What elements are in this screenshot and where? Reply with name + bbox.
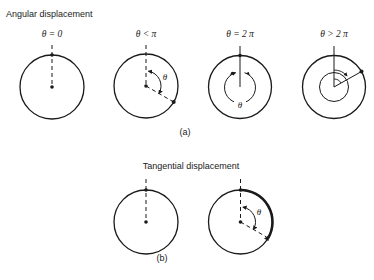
center-point (144, 84, 148, 88)
panel-label: θ = 2 π (226, 29, 254, 39)
theta-arc-arrow (243, 207, 256, 229)
panel-theta-greater-than-2pi: θ > 2 π (303, 29, 366, 119)
panel-tangential-start (114, 179, 178, 254)
position-point (144, 188, 148, 192)
position-point (238, 54, 242, 58)
panel-label: θ < π (136, 29, 157, 39)
theta-arc-arrow (149, 71, 162, 93)
displacement-diagram: Angular displacement θ = 0 θ < π θ θ = 2… (0, 0, 374, 280)
panel-tangential-displaced: θ (209, 179, 273, 254)
spiral-start-arc (334, 79, 341, 83)
center-point (239, 220, 243, 224)
panel-label: θ > 2 π (320, 29, 348, 39)
caption-a: (a) (180, 127, 191, 137)
panel-theta-equals-2pi: θ = 2 π θ (209, 29, 272, 119)
theta-label: θ (238, 100, 243, 110)
panel-label: θ = 0 (42, 29, 63, 39)
radius-line (334, 72, 362, 88)
radius-line (146, 86, 174, 102)
position-point (172, 100, 176, 104)
part-a-title: Angular displacement (6, 9, 93, 19)
panel-theta-zero: θ = 0 (20, 29, 84, 119)
position-point (50, 53, 54, 57)
theta-label: θ (163, 72, 168, 82)
caption-b: (b) (157, 253, 168, 263)
panel-theta-less-than-pi: θ < π θ (114, 29, 178, 118)
center-point (144, 220, 148, 224)
part-b-title: Tangential displacement (143, 161, 240, 171)
position-point (360, 70, 364, 74)
center-point (50, 85, 54, 89)
theta-label: θ (257, 207, 262, 217)
start-point (239, 188, 243, 192)
